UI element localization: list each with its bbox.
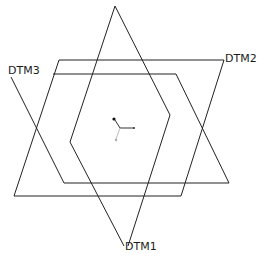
plane-dtm1[interactable]	[70, 6, 170, 246]
label-dtm1[interactable]: DTM1	[125, 241, 157, 253]
plane-dtm2[interactable]	[14, 60, 224, 196]
coordinate-system-icon	[112, 117, 135, 141]
label-dtm3[interactable]: DTM3	[8, 65, 40, 77]
datum-diagram	[0, 0, 267, 264]
label-dtm2[interactable]: DTM2	[225, 53, 257, 65]
